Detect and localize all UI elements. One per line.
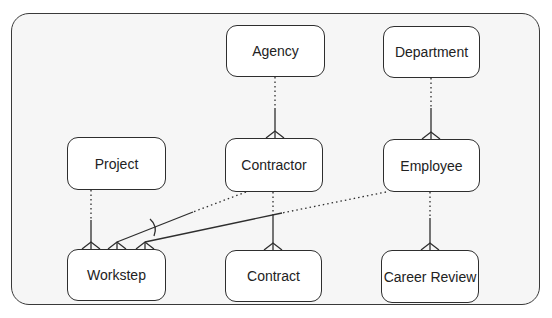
entity-employee[interactable]: Employee <box>383 139 480 192</box>
relationship-agency-contractor <box>266 77 284 138</box>
entity-agency[interactable]: Agency <box>226 25 325 77</box>
relationship-employee-career-review <box>421 192 439 250</box>
relationship-employee-workstep <box>136 192 386 249</box>
entity-label: Workstep <box>87 267 146 283</box>
entity-label: Agency <box>252 43 299 59</box>
entity-label: Career Review <box>384 269 477 285</box>
entity-project[interactable]: Project <box>67 137 166 190</box>
entity-career-review[interactable]: Career Review <box>381 250 479 303</box>
entity-label: Department <box>395 44 468 60</box>
relationship-department-employee <box>422 78 440 139</box>
entity-workstep[interactable]: Workstep <box>67 249 166 301</box>
relationship-project-workstep <box>82 190 100 249</box>
entity-label: Contract <box>247 268 300 284</box>
entity-contractor[interactable]: Contractor <box>225 138 323 192</box>
entity-label: Contractor <box>241 157 306 173</box>
relationship-contractor-workstep <box>108 192 246 249</box>
entity-contract[interactable]: Contract <box>225 250 322 302</box>
relationship-contractor-contract <box>264 192 282 250</box>
entity-label: Project <box>95 156 139 172</box>
entity-department[interactable]: Department <box>383 26 480 78</box>
entity-label: Employee <box>400 158 462 174</box>
